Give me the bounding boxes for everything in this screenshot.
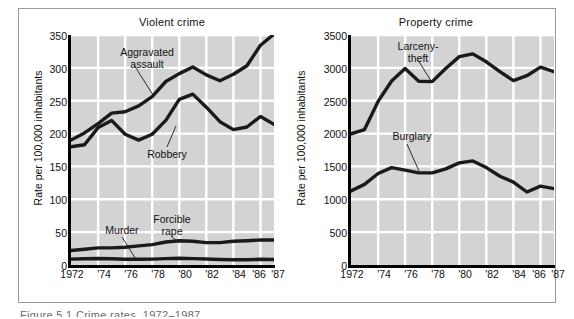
crime-rate-figure: Violent crime Rate per 100,000 inhabitan… — [0, 0, 574, 319]
caption-fragment: Figure 5.1 Crime rates, 1972–1987 — [20, 310, 540, 317]
annotation-leaders-property-crime — [407, 60, 431, 171]
annotation-larceny-theft-line2: theft — [385, 53, 451, 65]
leader-robbery — [167, 126, 176, 147]
annotation-larceny-theft: Larceny- theft — [385, 41, 451, 64]
annotation-forcible-rape: Forcible rape — [143, 214, 201, 237]
annotation-burglary-line1: Burglary — [381, 131, 443, 143]
annotation-robbery: Robbery — [137, 149, 197, 161]
line-forcible-rape — [71, 240, 274, 251]
line-murder — [71, 258, 274, 260]
annotation-aggravated-assault-line2: assault — [104, 59, 190, 71]
annotation-aggravated-assault: Aggravated assault — [104, 47, 190, 70]
gridlines-property-crime — [351, 35, 554, 265]
annotation-aggravated-assault-line1: Aggravated — [104, 47, 190, 59]
caption-text: Figure 5.1 Crime rates, 1972–1987 — [20, 310, 540, 317]
figure-frame: Violent crime Rate per 100,000 inhabitan… — [18, 8, 556, 303]
annotation-robbery-line1: Robbery — [137, 149, 197, 161]
annotation-burglary: Burglary — [381, 131, 443, 143]
annotation-forcible-rape-line2: rape — [143, 226, 201, 238]
line-larceny-theft — [351, 54, 554, 134]
annotation-larceny-theft-line1: Larceny- — [385, 41, 451, 53]
panel-property-crime: Property crime Rate per 100,000 inhabita… — [285, 9, 557, 304]
panel-violent-crime: Violent crime Rate per 100,000 inhabitan… — [19, 9, 291, 304]
annotation-forcible-rape-line1: Forcible — [143, 214, 201, 226]
